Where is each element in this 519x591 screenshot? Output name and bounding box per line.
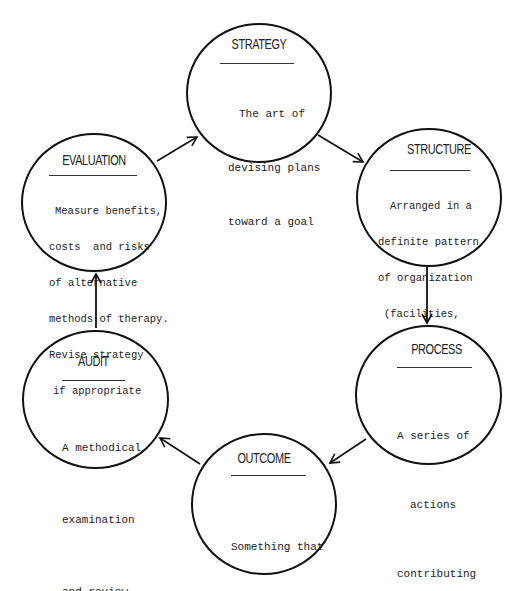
node-description: Measure benefits, costs and risks of alt… <box>49 181 169 421</box>
description-line: if appropriate <box>49 385 169 397</box>
description-line: toward a goal <box>228 213 320 231</box>
description-line: definite pattern <box>378 236 479 248</box>
arrow-strategy-to-structure <box>318 135 363 162</box>
description-line: (facilities, <box>378 308 479 320</box>
title-underline <box>49 175 137 176</box>
node-strategy: STRATEGY The art of devising plans towar… <box>186 23 332 163</box>
node-outcome: OUTCOME Something that follows as a cons… <box>191 433 337 575</box>
description-line: actions <box>397 494 476 517</box>
description-line: devising plans <box>228 159 320 177</box>
node-structure: STRUCTURE Arranged in a definite pattern… <box>356 128 502 267</box>
description-line: costs and risks <box>49 241 169 253</box>
node-title: OUTCOME <box>209 450 320 466</box>
description-line: Revise strategy <box>49 349 169 361</box>
description-line: Measure benefits, <box>49 205 169 217</box>
node-title: EVALUATION <box>39 152 150 168</box>
description-line: and review <box>62 580 141 591</box>
arrow-evaluation-to-strategy <box>157 137 197 161</box>
description-line: of organization <box>378 272 479 284</box>
node-evaluation: EVALUATION Measure benefits, costs and r… <box>21 133 167 272</box>
description-line: contributing <box>397 563 476 586</box>
description-line: methods of therapy. <box>49 313 169 325</box>
node-process: PROCESS A series of actions contributing… <box>355 325 502 465</box>
description-line: The art of <box>228 105 320 123</box>
node-description: A series of actions contributing to an e… <box>397 379 476 591</box>
description-line: A methodical <box>62 436 141 460</box>
node-description: The art of devising plans toward a goal <box>228 69 320 267</box>
title-underline <box>390 170 470 171</box>
title-underline <box>220 63 294 64</box>
node-title: STRUCTURE <box>384 141 495 157</box>
description-line: Arranged in a <box>378 200 479 212</box>
cycle-diagram: STRATEGY The art of devising plans towar… <box>0 0 519 591</box>
arrow-process-to-outcome <box>330 439 366 463</box>
node-title: PROCESS <box>381 341 493 357</box>
title-underline <box>231 475 306 476</box>
node-title: STRATEGY <box>204 36 315 52</box>
description-line: A series of <box>397 425 476 448</box>
arrow-outcome-to-audit <box>160 438 200 464</box>
title-underline <box>397 367 472 368</box>
description-line: examination <box>62 508 141 532</box>
description-line: of alternative <box>49 277 169 289</box>
node-description: Something that follows as a consequence <box>231 487 323 591</box>
description-line: Something that <box>231 535 323 559</box>
